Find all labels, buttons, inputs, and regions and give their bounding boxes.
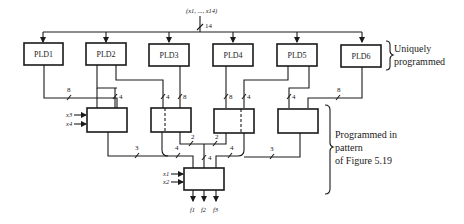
programmed-label: programmed	[394, 56, 445, 67]
programmed-in-label: Programmed in	[335, 129, 397, 140]
b1-block	[87, 108, 127, 132]
width-label: 2	[191, 133, 195, 141]
width-label: 3	[135, 144, 139, 152]
pld6-block: PLD6	[341, 45, 381, 67]
width-label: 8	[337, 86, 341, 94]
pld-network-diagram: (x1, ..., x14) 14 PLD1 PLD2 PLD3 PLD4 PL…	[0, 0, 464, 224]
b4-block	[278, 109, 318, 133]
pld3-label: PLD3	[159, 51, 178, 60]
final-block	[184, 168, 224, 190]
pattern-label: pattern	[335, 142, 363, 153]
pld2-to-b1-wire-a	[97, 65, 117, 88]
pld1-block: PLD1	[24, 43, 63, 65]
input-bus-text: (x1, ..., x14)	[186, 7, 217, 15]
x2-label: x2	[162, 178, 170, 185]
x1-label: x1	[162, 170, 169, 177]
width-label: 3	[270, 145, 274, 153]
pld5-label: PLD5	[287, 51, 306, 60]
uniquely-label: Uniquely	[394, 43, 431, 54]
input-bus-label: (x1, ..., x14)	[186, 7, 217, 15]
b2-output-wire	[162, 132, 168, 156]
pld1-label: PLD1	[34, 50, 53, 59]
f2-label: f2	[201, 206, 207, 213]
width-label: 4	[166, 93, 170, 101]
pld3-block: PLD3	[149, 44, 189, 66]
pld2-to-b2-wire	[116, 65, 163, 108]
f3-label: f3	[213, 206, 219, 213]
width-label: 4	[292, 93, 296, 101]
pld2-label: PLD2	[96, 50, 115, 59]
width-label: 8	[229, 93, 233, 101]
pld4-label: PLD4	[223, 51, 242, 60]
figure-ref-label: of Figure 5.19	[335, 155, 392, 166]
width-label: 4	[230, 144, 234, 152]
width-label: 4	[119, 93, 123, 101]
x3-label: x3	[65, 111, 73, 118]
x4-label: x4	[65, 120, 73, 127]
pld2-block: PLD2	[86, 43, 126, 65]
programmed-pattern-brace	[325, 105, 333, 194]
input-bus-width: 14	[205, 22, 213, 30]
width-label: 4	[247, 93, 251, 101]
width-label: 4	[208, 154, 212, 162]
pld6-label: PLD6	[351, 52, 370, 61]
b2-block	[151, 108, 191, 132]
width-label: 8	[183, 93, 187, 101]
width-label: 2	[215, 133, 219, 141]
width-label: 8	[67, 86, 71, 94]
pld5-block: PLD5	[277, 44, 317, 66]
b3-block	[214, 109, 254, 133]
pld5-to-b4-wire	[289, 66, 309, 108]
f1-label: f1	[190, 206, 195, 213]
width-label: 4	[175, 144, 179, 152]
pld6-output-wire	[308, 67, 362, 108]
pld4-block: PLD4	[213, 44, 253, 66]
pld1-output-wire	[44, 65, 117, 108]
uniquely-programmed-brace	[386, 41, 393, 70]
pld5-to-b3-wire	[244, 66, 288, 108]
